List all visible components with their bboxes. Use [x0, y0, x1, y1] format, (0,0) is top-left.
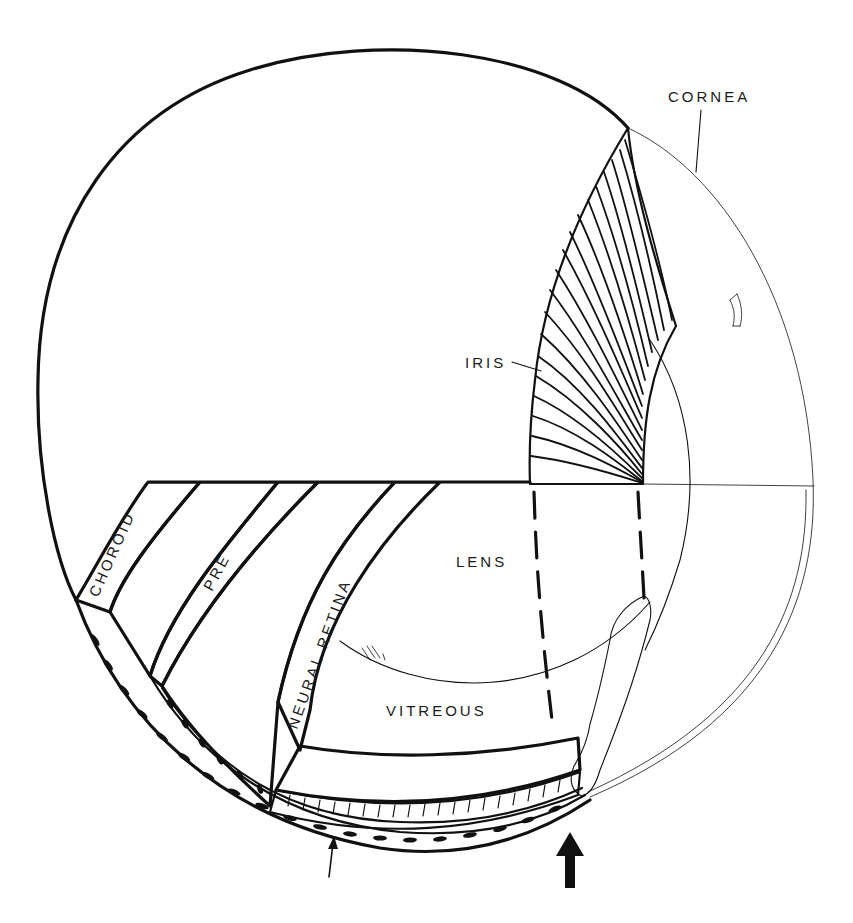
- lens-label: LENS: [456, 553, 507, 570]
- cornea-outline-inner: [588, 490, 806, 792]
- iris-striations: [531, 140, 672, 483]
- eye-cross-section-diagram: CORNEA IRIS: [0, 0, 853, 923]
- bold-arrow-icon: [556, 832, 584, 888]
- cornea-label: CORNEA: [668, 88, 750, 105]
- cornea-outline: [590, 128, 813, 797]
- lens-boundary-dashed-right: [638, 492, 644, 598]
- hatched-layer: [162, 482, 395, 806]
- vitreous-label: VITREOUS: [386, 702, 487, 719]
- iris-label: IRIS: [465, 354, 506, 371]
- thin-arrow-icon: [328, 836, 338, 877]
- section-cut-line-right: [643, 484, 814, 486]
- lens-boundary-dashed-left: [534, 492, 552, 720]
- choroid-label: CHOROID: [85, 508, 138, 599]
- cell-layer-outer: [276, 738, 580, 802]
- hyaloid-marks: [362, 646, 385, 660]
- cornea-leader-line: [696, 110, 701, 172]
- cornea-mark: [730, 294, 742, 326]
- neural-retina-label: NEURAL RETINA: [284, 576, 354, 731]
